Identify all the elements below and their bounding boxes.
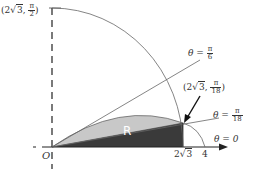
axis-arrow-icon (219, 144, 228, 151)
tick-label-4: 4 (202, 150, 208, 159)
theta: θ (213, 110, 218, 120)
point-label-pi-over-2: (2√3, π2) (1, 3, 39, 18)
paren-close: ) (221, 82, 225, 92)
denominator: 18 (232, 116, 243, 123)
radicand: 3 (185, 148, 192, 159)
denominator: 6 (207, 54, 214, 61)
coef: 2 (5, 5, 11, 15)
equals: = (221, 110, 229, 120)
fraction: π18 (232, 108, 243, 123)
point-label-pi-over-18: (2√3, π18) (183, 80, 225, 95)
denominator: 18 (210, 88, 221, 95)
ray-label-theta-zero: θ = 0 (214, 135, 238, 144)
ray-label-pi-over-6: θ = π6 (188, 46, 213, 61)
small-arc (183, 123, 205, 147)
ray-label-pi-over-18: θ = π18 (213, 108, 243, 123)
fraction: π18 (210, 80, 221, 95)
pointer-arrow-icon (184, 114, 191, 123)
comma: , (205, 82, 208, 92)
fraction: π6 (207, 46, 214, 61)
coef: 2 (174, 149, 180, 159)
tick-label-2root3: 2√3 (174, 150, 192, 159)
radicand: 3 (16, 4, 23, 15)
equals: = (196, 48, 204, 58)
origin-label: O (42, 151, 50, 161)
comma: , (23, 5, 26, 15)
radicand: 3 (198, 81, 205, 92)
coef: 2 (187, 82, 193, 92)
pointer-arrow-line (187, 96, 200, 118)
region-label-r: R (123, 124, 131, 138)
theta: θ (188, 48, 193, 58)
paren-close: ) (35, 5, 39, 15)
